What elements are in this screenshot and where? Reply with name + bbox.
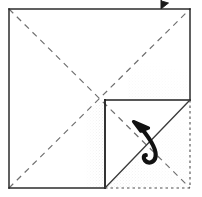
origami-diagram-svg — [0, 0, 202, 197]
shade-vertical-gradient — [84, 100, 105, 188]
shade-upper-right-faint — [128, 58, 190, 100]
top-edge-arrow-marker — [161, 0, 168, 9]
top-edge-arrow-marker-glyph — [162, 1, 169, 9]
origami-diagram — [0, 0, 202, 197]
